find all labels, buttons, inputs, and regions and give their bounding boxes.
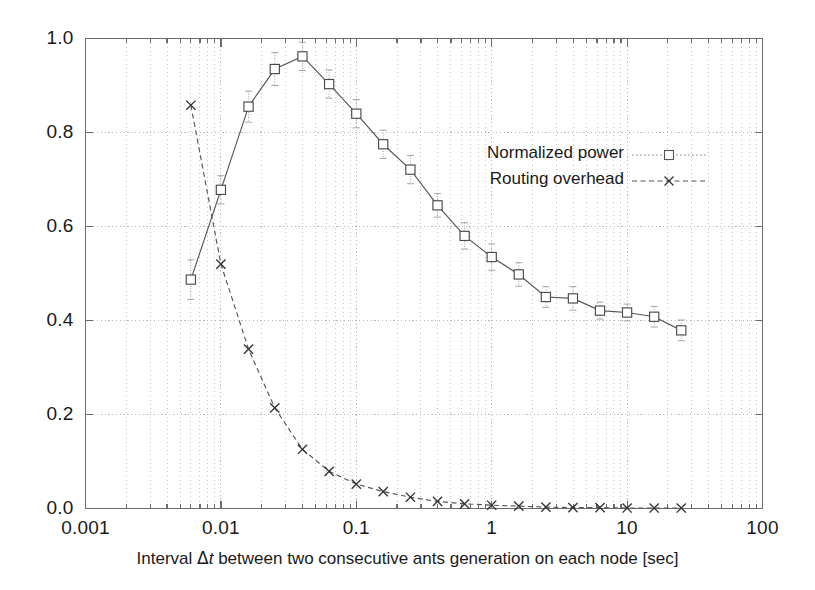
y-tick-label: 1.0 [46, 27, 73, 49]
delta-symbol: Δ [197, 548, 209, 568]
data-series-layer [186, 42, 686, 512]
x-axis-title: Interval Δt between two consecutive ants… [0, 548, 815, 569]
legend-sample-routing-overhead [630, 169, 710, 193]
y-tick-label: 0.8 [46, 121, 73, 143]
x-tick-label: 10 [567, 517, 687, 539]
chart-figure: 0.00.20.40.60.81.0 0.0010.010.1110100 No… [0, 0, 815, 590]
x-tick-label: 0.1 [296, 517, 416, 539]
legend-entry-routing-overhead: Routing overhead [468, 169, 710, 193]
y-tick-label: 0.4 [46, 309, 73, 331]
x-tick-label: 0.01 [161, 517, 281, 539]
x-tick-label: 0.001 [26, 517, 146, 539]
chart-legend: Normalized power Routing overhead [468, 143, 710, 195]
x-axis-title-before: Interval [137, 549, 197, 568]
chart-plot-area [0, 0, 815, 590]
x-axis-title-after: between two consecutive ants generation … [213, 549, 678, 568]
x-tick-label: 1 [432, 517, 552, 539]
y-tick-label: 0.2 [46, 403, 73, 425]
legend-sample-normalized-power [630, 143, 710, 167]
legend-entry-normalized-power: Normalized power [468, 143, 710, 167]
y-tick-label: 0.0 [46, 497, 73, 519]
legend-label-normalized-power: Normalized power [487, 143, 624, 163]
legend-label-routing-overhead: Routing overhead [490, 169, 624, 189]
x-tick-label: 100 [703, 517, 815, 539]
y-tick-label: 0.6 [46, 215, 73, 237]
